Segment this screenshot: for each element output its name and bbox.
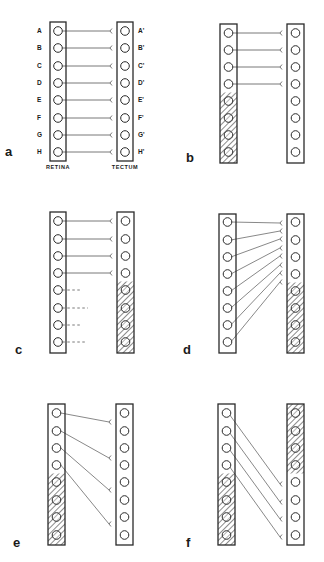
cell-circle-icon — [222, 478, 231, 487]
synapse-terminal-icon — [280, 237, 282, 242]
synapse-terminal-icon — [280, 254, 282, 259]
cell-circle-icon — [52, 444, 61, 453]
cell-circle-icon — [222, 461, 231, 470]
panel-letter-c: c — [15, 342, 22, 357]
cell-circle-icon — [223, 236, 232, 245]
cell-circle-icon — [291, 218, 300, 227]
cell-circle-icon — [291, 444, 300, 453]
synapse-terminal-icon — [110, 46, 112, 51]
cell-circle-icon — [121, 338, 130, 347]
cell-circle-icon — [121, 79, 130, 88]
panel-letter-b: b — [186, 150, 194, 165]
compressed-axon-line — [231, 239, 280, 257]
cell-circle-icon — [120, 478, 129, 487]
tectum-column — [287, 404, 304, 545]
tectum-row-label: C' — [138, 62, 145, 69]
cell-circle-icon — [223, 218, 232, 227]
cell-circle-icon — [224, 63, 233, 72]
cell-circle-icon — [222, 409, 231, 418]
cell-circle-icon — [54, 114, 63, 123]
tectum-column-outline — [287, 24, 304, 163]
shifted-axon-line — [230, 467, 280, 537]
synapse-terminal-icon — [280, 229, 282, 234]
tectum-column-outline — [117, 22, 133, 161]
compressed-axon-line — [231, 231, 280, 240]
retinotectal-projection-figure: ABCDEFGHA'B'C'D'E'F'G'H'RETINATECTUMabcd… — [0, 0, 324, 562]
cell-circle-icon — [52, 513, 61, 522]
cell-circle-icon — [224, 131, 233, 140]
cell-circle-icon — [291, 80, 300, 89]
retina-column-outline — [50, 22, 66, 161]
retina-column — [50, 212, 66, 353]
panel-a: ABCDEFGHA'B'C'D'E'F'G'H'RETINATECTUMa — [5, 22, 145, 170]
tectum-row-label: A' — [138, 27, 145, 34]
shifted-axon-line — [230, 450, 280, 519]
cell-circle-icon — [121, 114, 130, 123]
cell-circle-icon — [222, 531, 231, 540]
synapse-terminal-icon — [110, 271, 112, 276]
cell-circle-icon — [121, 269, 130, 278]
cell-circle-icon — [121, 148, 130, 157]
cell-circle-icon — [54, 235, 63, 244]
cell-circle-icon — [52, 478, 61, 487]
cell-circle-icon — [224, 29, 233, 38]
cell-circle-icon — [120, 513, 129, 522]
cell-circle-icon — [120, 496, 129, 505]
cell-circle-icon — [223, 321, 232, 330]
tectum-column — [117, 212, 134, 353]
tectum-column — [287, 24, 304, 163]
cell-circle-icon — [223, 287, 232, 296]
shifted-axon-line — [230, 433, 280, 502]
synapse-terminal-icon — [110, 64, 112, 69]
panel-letter-e: e — [13, 535, 20, 550]
retina-row-label: F — [37, 114, 41, 121]
cell-circle-icon — [121, 304, 130, 313]
panel-letter-d: d — [183, 342, 191, 357]
synapse-terminal-icon — [110, 29, 112, 34]
shifted-axon-line — [230, 415, 280, 484]
cell-circle-icon — [291, 478, 300, 487]
synapse-terminal-icon — [280, 263, 282, 268]
tectum-row-label: H' — [138, 148, 145, 155]
tectum-row-label: F' — [138, 114, 144, 121]
panel-b: b — [186, 24, 304, 165]
retina-row-label: A — [37, 27, 42, 34]
synapse-terminal-icon — [280, 500, 282, 505]
synapse-terminal-icon — [110, 133, 112, 138]
retina-column-outline — [50, 212, 66, 353]
cell-circle-icon — [222, 444, 231, 453]
synapse-terminal-icon — [280, 517, 282, 522]
retina-column — [48, 404, 65, 545]
tectum-label: TECTUM — [112, 164, 139, 170]
cell-circle-icon — [291, 321, 300, 330]
tectum-row-label: E' — [138, 96, 144, 103]
panel-letter-a: a — [5, 144, 13, 159]
cell-circle-icon — [120, 409, 129, 418]
cell-circle-icon — [223, 253, 232, 262]
cell-circle-icon — [121, 235, 130, 244]
cell-circle-icon — [291, 46, 300, 55]
cell-circle-icon — [224, 148, 233, 157]
retina-column — [220, 24, 237, 163]
synapse-terminal-icon — [110, 254, 112, 259]
tectum-column — [116, 404, 133, 545]
cell-circle-icon — [54, 217, 63, 226]
cell-circle-icon — [291, 253, 300, 262]
synapse-terminal-icon — [109, 420, 111, 425]
cell-circle-icon — [291, 270, 300, 279]
cell-circle-icon — [224, 80, 233, 89]
cell-circle-icon — [291, 496, 300, 505]
cell-circle-icon — [222, 513, 231, 522]
synapse-terminal-icon — [280, 482, 282, 487]
cell-circle-icon — [121, 96, 130, 105]
cell-circle-icon — [54, 96, 63, 105]
synapse-terminal-icon — [110, 116, 112, 121]
cell-circle-icon — [291, 531, 300, 540]
synapse-terminal-icon — [110, 81, 112, 86]
cell-circle-icon — [224, 114, 233, 123]
cell-circle-icon — [121, 252, 130, 261]
cell-circle-icon — [121, 286, 130, 295]
compressed-axon-line — [231, 265, 280, 308]
cell-circle-icon — [54, 338, 63, 347]
expanded-axon-line — [61, 413, 109, 422]
